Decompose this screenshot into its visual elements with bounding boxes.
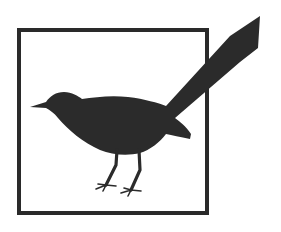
bird-logo: Bird silhouette with long tail inside sq… bbox=[0, 0, 281, 232]
bird-silhouette-icon bbox=[30, 16, 260, 196]
